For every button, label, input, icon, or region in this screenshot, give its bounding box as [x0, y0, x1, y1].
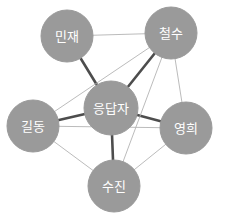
graph-node-cheolsu[interactable]: 철수 — [145, 7, 197, 59]
graph-node-circle-minjae[interactable] — [41, 10, 93, 62]
graph-node-circle-sujin[interactable] — [88, 160, 140, 212]
graph-node-gildong[interactable]: 길동 — [7, 100, 59, 152]
graph-node-younghee[interactable]: 영희 — [160, 102, 212, 154]
node-layer: 민재철수응답자길동영희수진 — [7, 7, 212, 212]
network-graph-figure: 민재철수응답자길동영희수진 — [0, 0, 225, 224]
graph-node-respondent[interactable]: 응답자 — [84, 81, 138, 135]
graph-node-circle-cheolsu[interactable] — [145, 7, 197, 59]
graph-node-circle-respondent[interactable] — [84, 81, 138, 135]
graph-node-circle-younghee[interactable] — [160, 102, 212, 154]
graph-node-circle-gildong[interactable] — [7, 100, 59, 152]
network-graph-canvas: 민재철수응답자길동영희수진 — [0, 0, 225, 224]
graph-node-minjae[interactable]: 민재 — [41, 10, 93, 62]
graph-node-sujin[interactable]: 수진 — [88, 160, 140, 212]
